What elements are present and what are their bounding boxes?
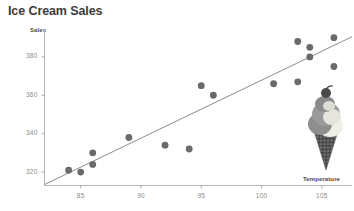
- data-point: [186, 146, 193, 153]
- axis-ticks: [42, 57, 322, 189]
- data-point: [89, 149, 96, 156]
- data-point: [331, 34, 338, 41]
- plot-area: [0, 0, 354, 211]
- data-point: [126, 134, 133, 141]
- x-tick-label: 85: [69, 192, 93, 199]
- y-tick-label: 340: [16, 129, 38, 136]
- y-tick-label: 320: [16, 168, 38, 175]
- data-point: [331, 63, 338, 70]
- data-point: [89, 161, 96, 168]
- data-point: [294, 78, 301, 85]
- data-point: [270, 80, 277, 87]
- scatter-chart: Ice Cream Sales Sales Temperature 320340…: [0, 0, 354, 211]
- data-point: [294, 38, 301, 45]
- data-point: [210, 92, 217, 99]
- x-tick-label: 105: [310, 192, 334, 199]
- data-point: [77, 169, 84, 176]
- data-point: [306, 44, 313, 51]
- data-point: [306, 53, 313, 60]
- data-point: [198, 82, 205, 89]
- x-tick-label: 100: [250, 192, 274, 199]
- ice-cream-cone-icon: [305, 84, 347, 172]
- y-tick-label: 380: [16, 52, 38, 59]
- data-points: [65, 34, 337, 175]
- x-tick-label: 95: [189, 192, 213, 199]
- data-point: [162, 142, 169, 149]
- y-tick-label: 360: [16, 91, 38, 98]
- data-point: [65, 167, 72, 174]
- x-tick-label: 90: [129, 192, 153, 199]
